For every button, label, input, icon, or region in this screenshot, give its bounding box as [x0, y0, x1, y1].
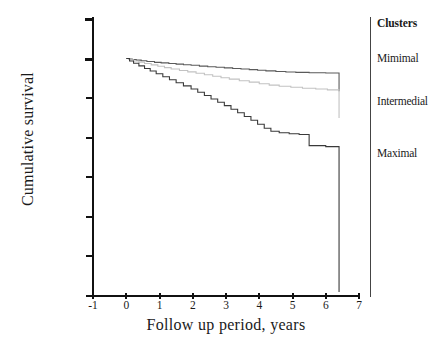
y-axis-tick [86, 216, 93, 218]
y-axis-tick [86, 255, 93, 257]
y-axis-tick [86, 176, 93, 178]
legend-title: Clusters [377, 17, 417, 29]
y-axis-tick [85, 58, 94, 61]
y-axis-tick [85, 18, 94, 21]
legend-item-intermedial: Intermedial [377, 95, 428, 107]
survival-chart-figure: Cumulative survival 1.0021.000.998.996.9… [0, 0, 443, 349]
y-axis-tick [86, 97, 93, 99]
legend-divider [370, 17, 371, 297]
y-axis-tick [86, 295, 93, 297]
curve-maximal [126, 59, 339, 292]
legend-item-mimimal: Mimimal [377, 52, 418, 64]
curve-mimimal [126, 59, 339, 92]
y-axis-tick [86, 137, 93, 139]
legend-item-maximal: Maximal [377, 147, 417, 159]
